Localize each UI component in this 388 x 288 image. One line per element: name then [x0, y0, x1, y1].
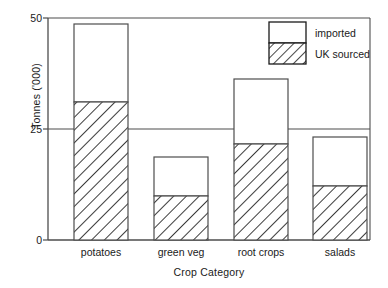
bar-root-crops-uk-sourced — [234, 144, 288, 240]
legend-label-imported: imported — [315, 27, 356, 39]
bar-green-veg-imported — [154, 157, 208, 196]
stacked-bar-chart: Tonnes ('000) Crop Category 0 25 50 pota… — [0, 0, 388, 288]
bar-salads-uk-sourced — [313, 186, 367, 240]
legend-swatch-imported — [269, 22, 306, 43]
chart-legend: imported UK sourced — [269, 22, 370, 64]
bar-salads-imported — [313, 137, 367, 186]
bar-green-veg-uk-sourced — [154, 196, 208, 240]
bar-root-crops-imported — [234, 79, 288, 144]
bar-potatoes-imported — [74, 24, 128, 102]
legend-label-uk-sourced: UK sourced — [315, 48, 370, 60]
plot-area: imported UK sourced — [0, 0, 388, 288]
legend-swatch-uk-sourced — [269, 43, 306, 64]
bar-potatoes-uk-sourced — [74, 102, 128, 240]
